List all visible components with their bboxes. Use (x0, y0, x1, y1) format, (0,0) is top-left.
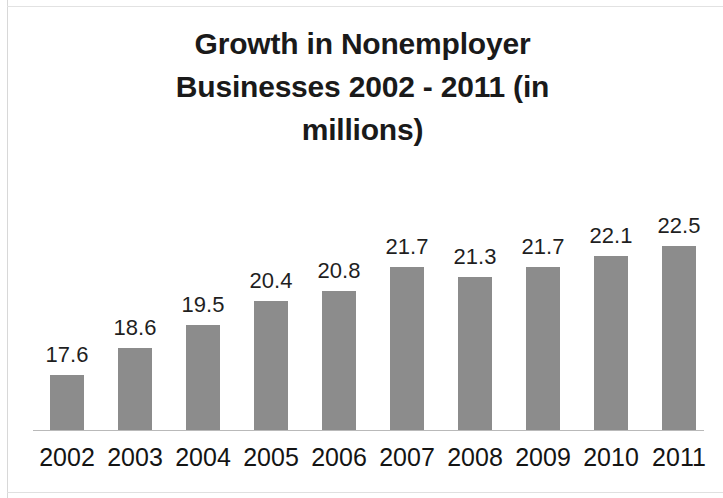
x-axis-category-label: 2010 (577, 443, 645, 472)
bar (254, 301, 288, 430)
plot-area: 17.6200218.6200319.5200420.4200520.82006… (0, 0, 723, 498)
bar-value-label: 18.6 (101, 315, 169, 341)
x-axis-category-label: 2002 (33, 443, 101, 472)
bar-value-label: 22.5 (645, 213, 713, 239)
x-axis-category-label: 2009 (509, 443, 577, 472)
bar (526, 267, 560, 430)
bar-group (237, 190, 305, 430)
bar (322, 291, 356, 430)
bar-value-label: 21.7 (509, 234, 577, 260)
x-axis-category-label: 2005 (237, 443, 305, 472)
bar-group (305, 190, 373, 430)
bar-group (373, 190, 441, 430)
x-axis-category-label: 2006 (305, 443, 373, 472)
bar-value-label: 19.5 (169, 292, 237, 318)
bar (662, 246, 696, 430)
bar-value-label: 17.6 (33, 342, 101, 368)
x-axis-category-label: 2008 (441, 443, 509, 472)
chart-page: Growth in Nonemployer Businesses 2002 - … (0, 0, 723, 498)
bar-value-label: 20.4 (237, 268, 305, 294)
bar-value-label: 21.3 (441, 244, 509, 270)
x-axis-category-label: 2004 (169, 443, 237, 472)
bar-value-label: 20.8 (305, 258, 373, 284)
bar (186, 325, 220, 430)
bar (594, 256, 628, 430)
bar (458, 277, 492, 430)
x-axis-category-label: 2011 (645, 443, 713, 472)
bar-value-label: 21.7 (373, 234, 441, 260)
x-axis-baseline (33, 430, 704, 431)
bar (118, 348, 152, 430)
bar-group (509, 190, 577, 430)
bar-group (33, 190, 101, 430)
x-axis-category-label: 2007 (373, 443, 441, 472)
bar (50, 375, 84, 430)
bar (390, 267, 424, 430)
bar-group (101, 190, 169, 430)
bar-value-label: 22.1 (577, 223, 645, 249)
bar-group (441, 190, 509, 430)
x-axis-category-label: 2003 (101, 443, 169, 472)
